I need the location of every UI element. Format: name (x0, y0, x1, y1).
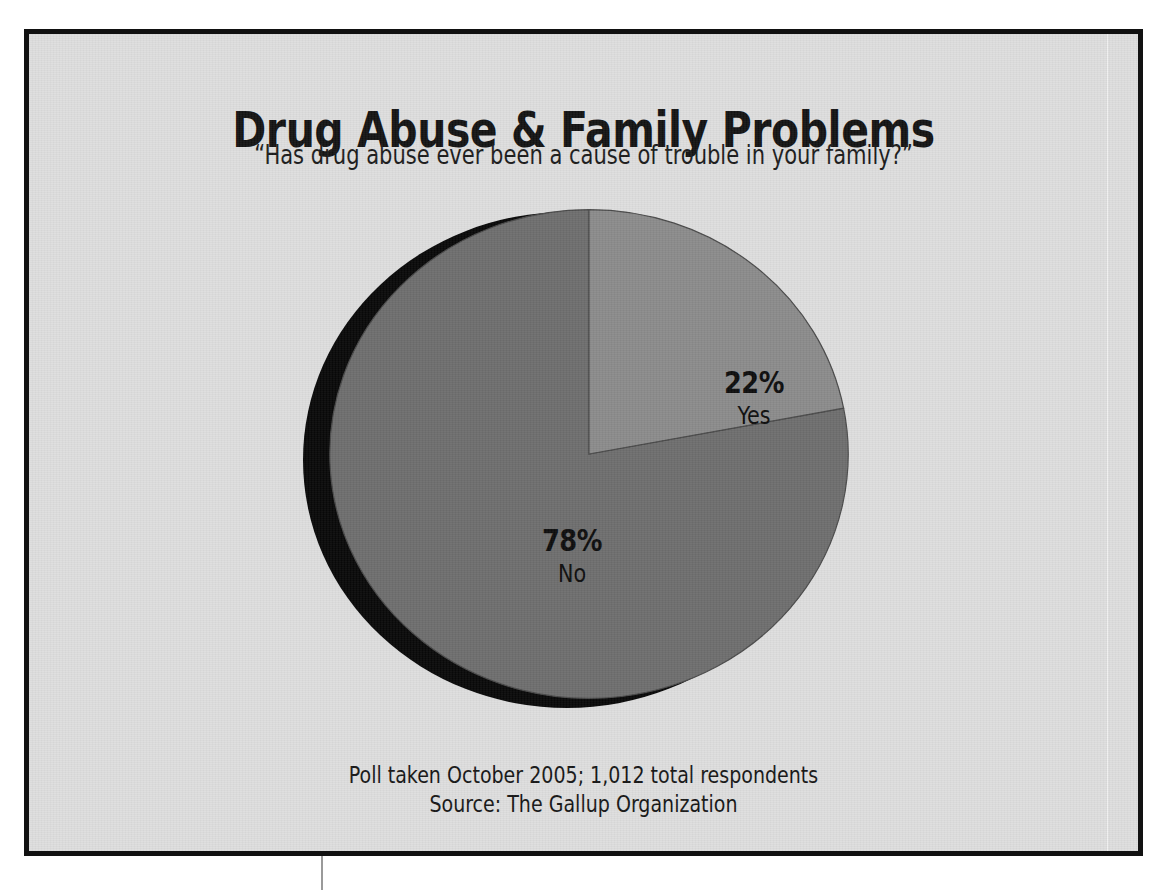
panel-seam-line (1107, 34, 1108, 851)
pie-label-no-percent: 78% (512, 524, 632, 557)
pie-label-yes: 22% Yes (689, 366, 819, 431)
footnote-source: Source: The Gallup Organization (73, 790, 1093, 819)
pie-svg (325, 206, 853, 702)
pie-chart: 22% Yes 78% No (303, 206, 851, 726)
chart-footnote: Poll taken October 2005; 1,012 total res… (73, 761, 1093, 820)
pie-label-yes-percent: 22% (694, 366, 814, 399)
chart-subtitle: “Has drug abuse ever been a cause of tro… (84, 141, 1082, 171)
pie-label-no: 78% No (507, 524, 637, 589)
footnote-poll-info: Poll taken October 2005; 1,012 total res… (73, 761, 1093, 790)
pie-label-no-name: No (512, 559, 632, 589)
chart-frame: Drug Abuse & Family Problems “Has drug a… (24, 29, 1143, 856)
pie-label-yes-name: Yes (694, 401, 814, 431)
page-gutter-line (321, 856, 323, 890)
